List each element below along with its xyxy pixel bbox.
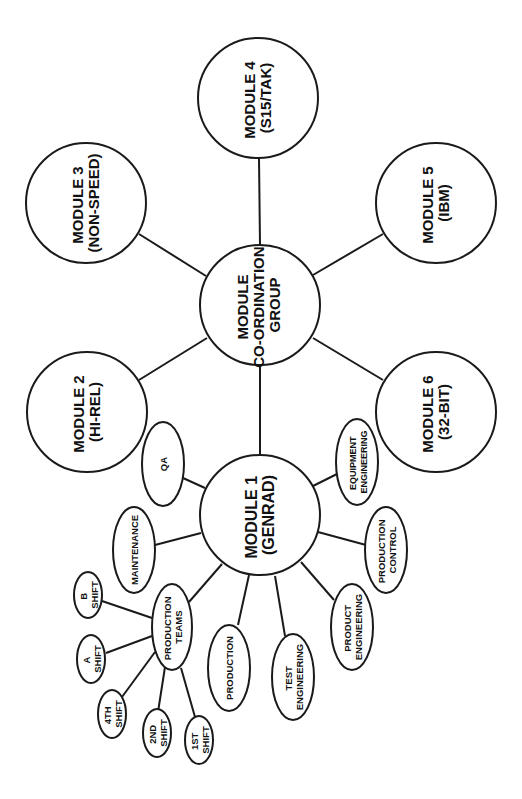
module-4-node: MODULE 4 (S15/TAK): [198, 38, 318, 158]
label-line: (NON-SPEED): [85, 153, 102, 252]
label-line: ENGINEERING: [294, 644, 305, 711]
edge-m1-qa: [183, 478, 205, 488]
label-line: 2ND: [147, 725, 158, 744]
production-teams-node: PRODUCTION TEAMS: [152, 584, 192, 670]
module-6-node: MODULE 6 (32-BIT): [376, 352, 496, 472]
edge-pteams-ashift: [106, 636, 152, 653]
label-line: (S15/TAK): [257, 63, 274, 134]
edge-pteams-2nd: [158, 667, 165, 712]
maintenance-node: MAINTENANCE: [113, 507, 155, 593]
module-2-node: MODULE 2 (HI-REL): [27, 352, 147, 472]
svg-text:4TH SHIFT: 4TH SHIFT: [102, 700, 124, 728]
label-line: MODULE 3: [69, 166, 86, 244]
svg-text:1ST SHIFT: 1ST SHIFT: [189, 726, 211, 754]
label-line: (32-BIT): [435, 384, 452, 440]
svg-text:MODULE 3 (NON-SPEED): MODULE 3 (NON-SPEED): [69, 153, 102, 252]
label-line: PRODUCTION: [376, 519, 387, 583]
org-diagram: MODULE CO-ORDINATION GROUP MODULE 4 (S15…: [0, 0, 522, 799]
label-line: TEAMS: [173, 610, 184, 643]
label-line: SHIFT: [158, 719, 169, 747]
module-1-node: MODULE 1 (GENRAD): [200, 455, 320, 575]
label-line: MODULE 4: [241, 61, 258, 139]
label-line: GROUP: [266, 277, 283, 332]
label-line: MODULE 6: [419, 375, 436, 453]
label-line: PRODUCTION: [162, 596, 173, 660]
1st-shift-node: 1ST SHIFT: [185, 716, 213, 764]
label-line: A: [81, 657, 92, 664]
label-line: MODULE 1: [243, 476, 260, 559]
svg-text:MODULE 4 (S15/TAK): MODULE 4 (S15/TAK): [241, 57, 274, 139]
label-line: B: [78, 593, 89, 600]
edge-pteams-bshift: [102, 601, 152, 618]
edge-m1-prod: [238, 575, 249, 625]
2nd-shift-node: 2ND SHIFT: [143, 709, 171, 757]
b-shift-node: B SHIFT: [74, 572, 102, 618]
label-line: ENGINEERING: [353, 594, 364, 661]
edge-pteams-1st: [181, 668, 195, 717]
test-engineering-node: TEST ENGINEERING: [272, 634, 314, 720]
label-line: EQUIPMENT: [348, 436, 358, 490]
label-line: MODULE 5: [419, 166, 436, 244]
equipment-engineering-node: EQUIPMENT ENGINEERING: [336, 419, 378, 505]
edge-m1-equipeng: [313, 474, 337, 486]
production-node: PRODUCTION: [208, 625, 250, 711]
edge-m1-pteams: [189, 564, 222, 602]
label-line: SHIFT: [89, 581, 100, 609]
4th-shift-node: 4TH SHIFT: [98, 690, 126, 738]
edge-m1-testeng: [275, 576, 285, 636]
svg-text:MODULE 2 (HI-REL): MODULE 2 (HI-REL): [70, 371, 103, 453]
label-line: 1ST: [189, 732, 200, 750]
svg-text:2ND SHIFT: 2ND SHIFT: [147, 719, 169, 747]
coordination-group-node: MODULE CO-ORDINATION GROUP: [200, 242, 320, 368]
label-line: TEST: [283, 666, 294, 690]
a-shift-node: A SHIFT: [77, 635, 105, 683]
edge-coord-m5: [313, 234, 383, 275]
svg-text:PRODUCTION: PRODUCTION: [224, 636, 235, 700]
svg-text:EQUIPMENT ENGINEERING: EQUIPMENT ENGINEERING: [348, 430, 369, 493]
label-line: PRODUCT: [342, 605, 353, 652]
label-line: MAINTENANCE: [129, 515, 140, 585]
label-line: (GENRAD): [260, 475, 277, 555]
label-line: PRODUCTION: [224, 636, 235, 700]
label-line: CO-ORDINATION: [250, 246, 267, 367]
label-line: QA: [158, 457, 169, 471]
label-line: (IBM): [435, 184, 452, 222]
label-line: SHIFT: [200, 726, 211, 754]
edge-pteams-4th: [122, 652, 155, 697]
label-line: (HI-REL): [86, 382, 103, 442]
label-line: MODULE 2: [70, 375, 87, 453]
module-3-node: MODULE 3 (NON-SPEED): [26, 143, 146, 263]
edge-coord-m2: [139, 338, 207, 380]
edge-m1-prodctl: [318, 532, 366, 545]
svg-text:PRODUCT ENGINEERING: PRODUCT ENGINEERING: [342, 594, 364, 661]
product-engineering-node: PRODUCT ENGINEERING: [331, 584, 373, 670]
label-line: ENGINEERING: [359, 430, 369, 493]
svg-text:MAINTENANCE: MAINTENANCE: [129, 515, 140, 585]
module-5-node: MODULE 5 (IBM): [376, 143, 496, 263]
edge-m1-prodeng: [301, 562, 334, 600]
label-line: SHIFT: [113, 700, 124, 728]
qa-node: QA: [142, 422, 184, 506]
edge-coord-m3: [139, 234, 206, 276]
label-line: 4TH: [102, 706, 113, 724]
edge-m1-maint: [155, 533, 201, 545]
edge-coord-m6: [313, 338, 383, 380]
label-line: MODULE: [234, 275, 251, 340]
svg-text:QA: QA: [158, 457, 169, 471]
label-line: CONTROL: [387, 526, 398, 573]
svg-text:PRODUCTION CONTROL: PRODUCTION CONTROL: [376, 517, 398, 584]
edge-coord-m4: [259, 158, 260, 245]
svg-text:MODULE 1 (GENRAD): MODULE 1 (GENRAD): [243, 471, 277, 558]
label-line: SHIFT: [92, 645, 103, 673]
production-control-node: PRODUCTION CONTROL: [365, 507, 407, 593]
